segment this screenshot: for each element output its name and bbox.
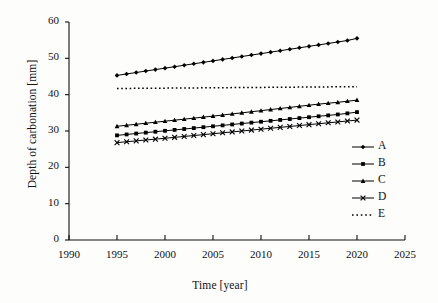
- x-axis-title: Time [year]: [120, 279, 320, 291]
- data-point-marker: [154, 130, 158, 134]
- data-point-marker: [259, 120, 263, 124]
- data-point-marker: [288, 47, 293, 52]
- y-tick-label: 40: [33, 87, 59, 99]
- carbonation-depth-chart: Depth of carbonation [mm] Time [year] 01…: [0, 0, 438, 303]
- data-point-marker: [288, 117, 292, 121]
- data-point-marker: [172, 64, 177, 69]
- data-point-marker: [297, 45, 302, 50]
- data-point-marker: [250, 121, 254, 125]
- data-point-marker: [125, 133, 129, 137]
- data-point-marker: [192, 126, 196, 130]
- data-point-marker: [336, 40, 341, 45]
- data-point-marker: [307, 44, 312, 49]
- data-point-marker: [211, 124, 215, 128]
- legend-label-a: A: [378, 139, 386, 151]
- data-point-marker: [163, 129, 167, 133]
- data-point-marker: [269, 119, 273, 123]
- data-point-marker: [230, 123, 234, 127]
- legend-label-c: C: [378, 173, 386, 185]
- data-point-marker: [355, 36, 360, 41]
- legend-swatch-b: [352, 162, 374, 166]
- data-point-marker: [326, 41, 331, 46]
- data-point-marker: [144, 69, 149, 74]
- data-point-marker: [163, 66, 168, 71]
- data-point-marker: [259, 51, 264, 56]
- data-point-marker: [182, 63, 187, 68]
- x-tick-label: 2025: [385, 248, 425, 260]
- data-point-marker: [307, 115, 311, 119]
- data-point-marker: [361, 162, 365, 166]
- y-tick-label: 20: [33, 159, 59, 171]
- legend-label-b: B: [378, 156, 386, 168]
- legend-swatch-a: [352, 145, 374, 150]
- data-point-marker: [316, 43, 321, 48]
- data-point-marker: [115, 133, 119, 137]
- data-point-marker: [221, 123, 225, 127]
- data-point-marker: [220, 57, 225, 62]
- data-point-marker: [124, 72, 129, 77]
- y-tick-label: 30: [33, 123, 59, 135]
- data-point-marker: [345, 38, 350, 43]
- data-point-marker: [361, 145, 366, 150]
- x-tick-label: 1995: [97, 248, 137, 260]
- series-a: [115, 36, 360, 78]
- data-point-marker: [240, 122, 244, 126]
- data-point-marker: [134, 70, 139, 75]
- x-tick-label: 2005: [193, 248, 233, 260]
- data-point-marker: [230, 56, 235, 61]
- data-point-marker: [202, 125, 206, 129]
- series-line-c: [117, 100, 357, 126]
- data-point-marker: [211, 59, 216, 64]
- series-d: [115, 118, 360, 145]
- series-line-a: [117, 38, 357, 75]
- data-point-marker: [346, 111, 350, 115]
- x-tick-label: 2010: [241, 248, 281, 260]
- series-line-e: [117, 87, 357, 89]
- data-point-marker: [268, 50, 273, 55]
- y-tick-label: 50: [33, 50, 59, 62]
- data-point-marker: [317, 114, 321, 118]
- data-point-marker: [298, 116, 302, 120]
- legend-swatch-c: [352, 179, 374, 183]
- data-point-marker: [153, 67, 158, 72]
- y-tick-label: 60: [33, 14, 59, 26]
- x-tick-label: 2015: [289, 248, 329, 260]
- data-point-marker: [201, 60, 206, 65]
- data-point-marker: [134, 132, 138, 136]
- data-point-marker: [249, 53, 254, 58]
- data-point-marker: [192, 61, 197, 66]
- data-point-marker: [240, 54, 245, 59]
- data-point-marker: [173, 128, 177, 132]
- legend-label-e: E: [378, 207, 385, 219]
- data-point-marker: [278, 48, 283, 53]
- legend-swatch-d: [352, 196, 374, 201]
- series-line-d: [117, 120, 357, 143]
- x-tick-label: 2000: [145, 248, 185, 260]
- y-tick-label: 0: [33, 232, 59, 244]
- x-tick-label: 1990: [49, 248, 89, 260]
- data-point-marker: [144, 131, 148, 135]
- legend-label-d: D: [378, 190, 386, 202]
- x-tick-label: 2020: [337, 248, 377, 260]
- data-point-marker: [355, 110, 359, 114]
- data-point-marker: [326, 113, 330, 117]
- series-e: [117, 87, 357, 89]
- y-tick-label: 10: [33, 196, 59, 208]
- data-point-marker: [182, 127, 186, 131]
- data-point-marker: [115, 73, 120, 78]
- data-point-marker: [336, 113, 340, 117]
- data-point-marker: [278, 118, 282, 122]
